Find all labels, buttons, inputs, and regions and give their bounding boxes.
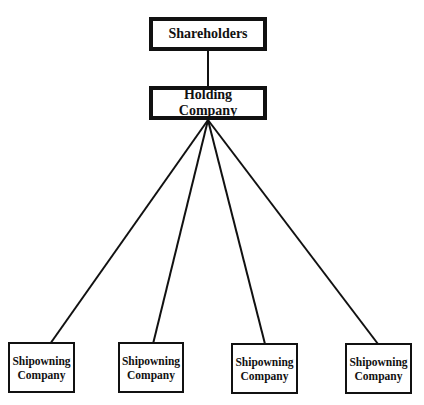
shipowning-company-node-4: ShipowningCompany (345, 343, 412, 394)
node-label-line1: Shipowning (122, 355, 180, 367)
node-label-line1: Shipowning (349, 356, 407, 368)
connector-holding-sub4 (208, 120, 378, 344)
node-label-line2: Company (355, 370, 403, 382)
node-label-line2: Company (18, 369, 66, 381)
node-label-line1: Shipowning (12, 355, 70, 367)
connector-holding-sub3 (208, 120, 265, 344)
shipowning-company-node-3: ShipowningCompany (231, 343, 298, 394)
shipowning-company-node-1: ShipowningCompany (8, 342, 75, 393)
shareholders-node: Shareholders (149, 17, 267, 51)
connector-holding-sub1 (50, 120, 208, 344)
node-label-line2: Company (241, 370, 289, 382)
node-label-line2: Company (127, 369, 175, 381)
node-label-line1: Shipowning (235, 356, 293, 368)
holding-company-node: Holding Company (149, 86, 267, 120)
holding-company-label: Holding Company (153, 87, 263, 119)
shareholders-label: Shareholders (168, 26, 247, 42)
shipowning-company-node-2: ShipowningCompany (118, 342, 184, 393)
connector-holding-sub2 (153, 120, 208, 344)
